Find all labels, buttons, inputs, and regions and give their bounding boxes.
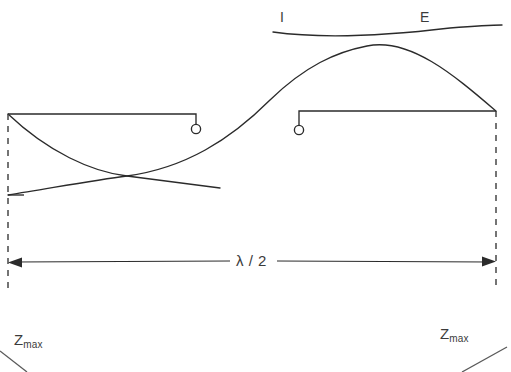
right-bracket [299, 111, 496, 125]
left-bracket [8, 114, 196, 124]
dimension-arrowhead-left-icon [8, 258, 22, 268]
left-probe-circle-icon [191, 124, 200, 133]
voltage-curve-label: E [420, 10, 429, 24]
right-zmax-tick-line [462, 347, 507, 372]
zmax-right-sub: max [449, 333, 469, 344]
left-zmax-tick-line [0, 351, 27, 372]
dimension-line-right [277, 261, 490, 262]
dimension-arrowhead-right-icon [482, 257, 496, 267]
right-probe-circle-icon [294, 125, 303, 134]
current-curve-label: I [280, 10, 284, 24]
voltage-curve-left-segment [8, 114, 220, 188]
standing-wave-diagram: I E λ / 2 Zmax Zmax [0, 0, 511, 372]
zmax-label-left: Zmax [14, 332, 43, 347]
half-wavelength-label: λ / 2 [232, 253, 271, 268]
zmax-left-main: Z [14, 331, 23, 348]
diagram-canvas [0, 0, 511, 372]
dimension-line-left [14, 261, 230, 262]
voltage-curve-right-segment [273, 25, 502, 36]
current-curve [8, 45, 496, 195]
zmax-left-sub: max [23, 339, 43, 350]
zmax-label-right: Zmax [440, 326, 469, 341]
zmax-right-main: Z [440, 325, 449, 342]
